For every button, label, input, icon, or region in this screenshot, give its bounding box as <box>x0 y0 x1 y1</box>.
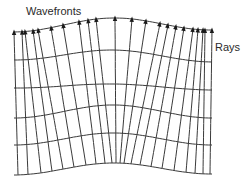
wavefront-line <box>14 163 212 175</box>
wavefront-line <box>14 133 212 145</box>
rays-label: Rays <box>215 42 240 53</box>
ray-line <box>162 28 184 169</box>
ray-line <box>120 19 132 163</box>
ray-line <box>51 28 74 168</box>
wavefront-grid <box>0 0 251 185</box>
ray-line <box>88 20 105 163</box>
ray-line <box>33 31 52 171</box>
wavefront-ray-diagram: Wavefronts Rays <box>0 0 251 185</box>
ray-line <box>96 19 112 163</box>
ray-line <box>210 30 212 174</box>
arrowhead-icon <box>157 21 161 27</box>
ray-line <box>14 32 18 175</box>
ray-line <box>115 18 116 163</box>
ray-line <box>203 30 205 174</box>
ray-line <box>79 22 96 164</box>
arrowhead-icon <box>165 23 169 29</box>
ray-lines <box>12 16 214 175</box>
wavefronts-label: Wavefronts <box>26 6 81 17</box>
ray-line <box>174 29 193 171</box>
wavefront-line <box>14 84 212 90</box>
ray-line <box>38 30 63 169</box>
ray-line <box>63 25 86 165</box>
